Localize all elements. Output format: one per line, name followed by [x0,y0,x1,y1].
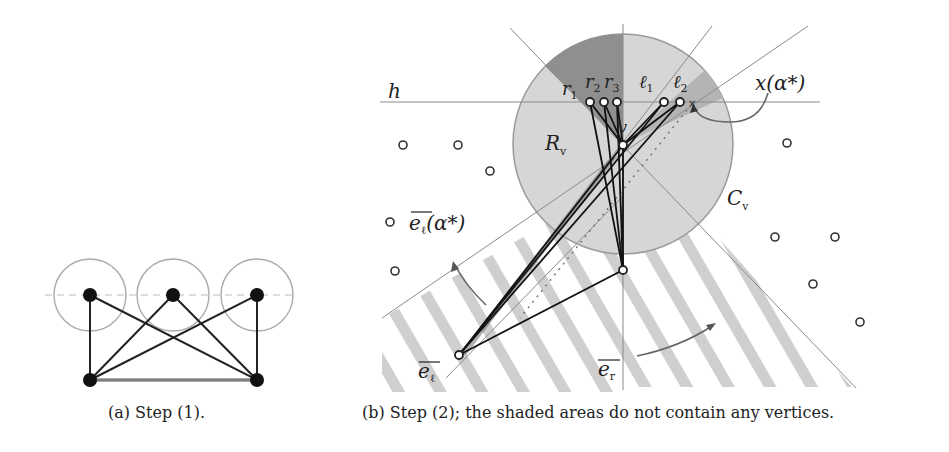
figure-canvas: × h r1 r2 r3 ℓ1 [0,0,949,452]
graph-edges [90,295,257,380]
label-h: h [388,79,401,103]
label-Cv: Cv [727,186,749,213]
label-el-alpha: eℓ(α*) [409,211,465,237]
panel-a-graph [45,259,297,387]
label-x-alpha: x(α*) [755,71,805,95]
caption-b: (b) Step (2); the shaded areas do not co… [362,403,834,422]
caption-a: (a) Step (1). [108,403,205,422]
x-alpha-marker: × [688,98,696,109]
label-v: v [618,118,627,137]
panel-b-construction: × h r1 r2 r3 ℓ1 [370,24,870,395]
